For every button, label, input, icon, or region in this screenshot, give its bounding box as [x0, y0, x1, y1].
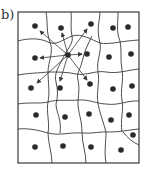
nucleus-dot: [106, 54, 112, 60]
nucleus-dot: [88, 144, 94, 150]
nucleus-dot: [32, 144, 38, 150]
nucleus-dot: [60, 143, 66, 149]
nucleus-dot: [32, 55, 38, 61]
nucleus-dot: [130, 132, 136, 138]
cell-boundaries: [18, 12, 139, 163]
nucleus-dot: [129, 83, 135, 89]
arrows: [37, 29, 87, 83]
nucleus-dot: [110, 25, 116, 31]
nucleus-dot: [58, 25, 64, 31]
nucleus-dot: [88, 21, 94, 27]
nucleus-dot: [128, 51, 134, 57]
nucleus-dot: [87, 81, 93, 87]
nucleus-dot: [108, 117, 114, 123]
nucleus-dot: [33, 112, 39, 118]
nucleus-dot: [62, 114, 68, 120]
nucleus-dot: [84, 51, 90, 57]
nucleus-dot: [32, 23, 38, 29]
nucleus-dot: [57, 85, 63, 91]
voronoi-diagram: [0, 0, 148, 174]
nucleus-dot: [86, 111, 92, 117]
nucleus-dot: [126, 112, 132, 118]
nucleus-dot: [110, 86, 116, 92]
nucleus-dot: [125, 24, 131, 30]
nucleus-dot: [28, 85, 34, 91]
nucleus-dot: [65, 52, 71, 58]
nucleus-dot: [118, 147, 124, 153]
